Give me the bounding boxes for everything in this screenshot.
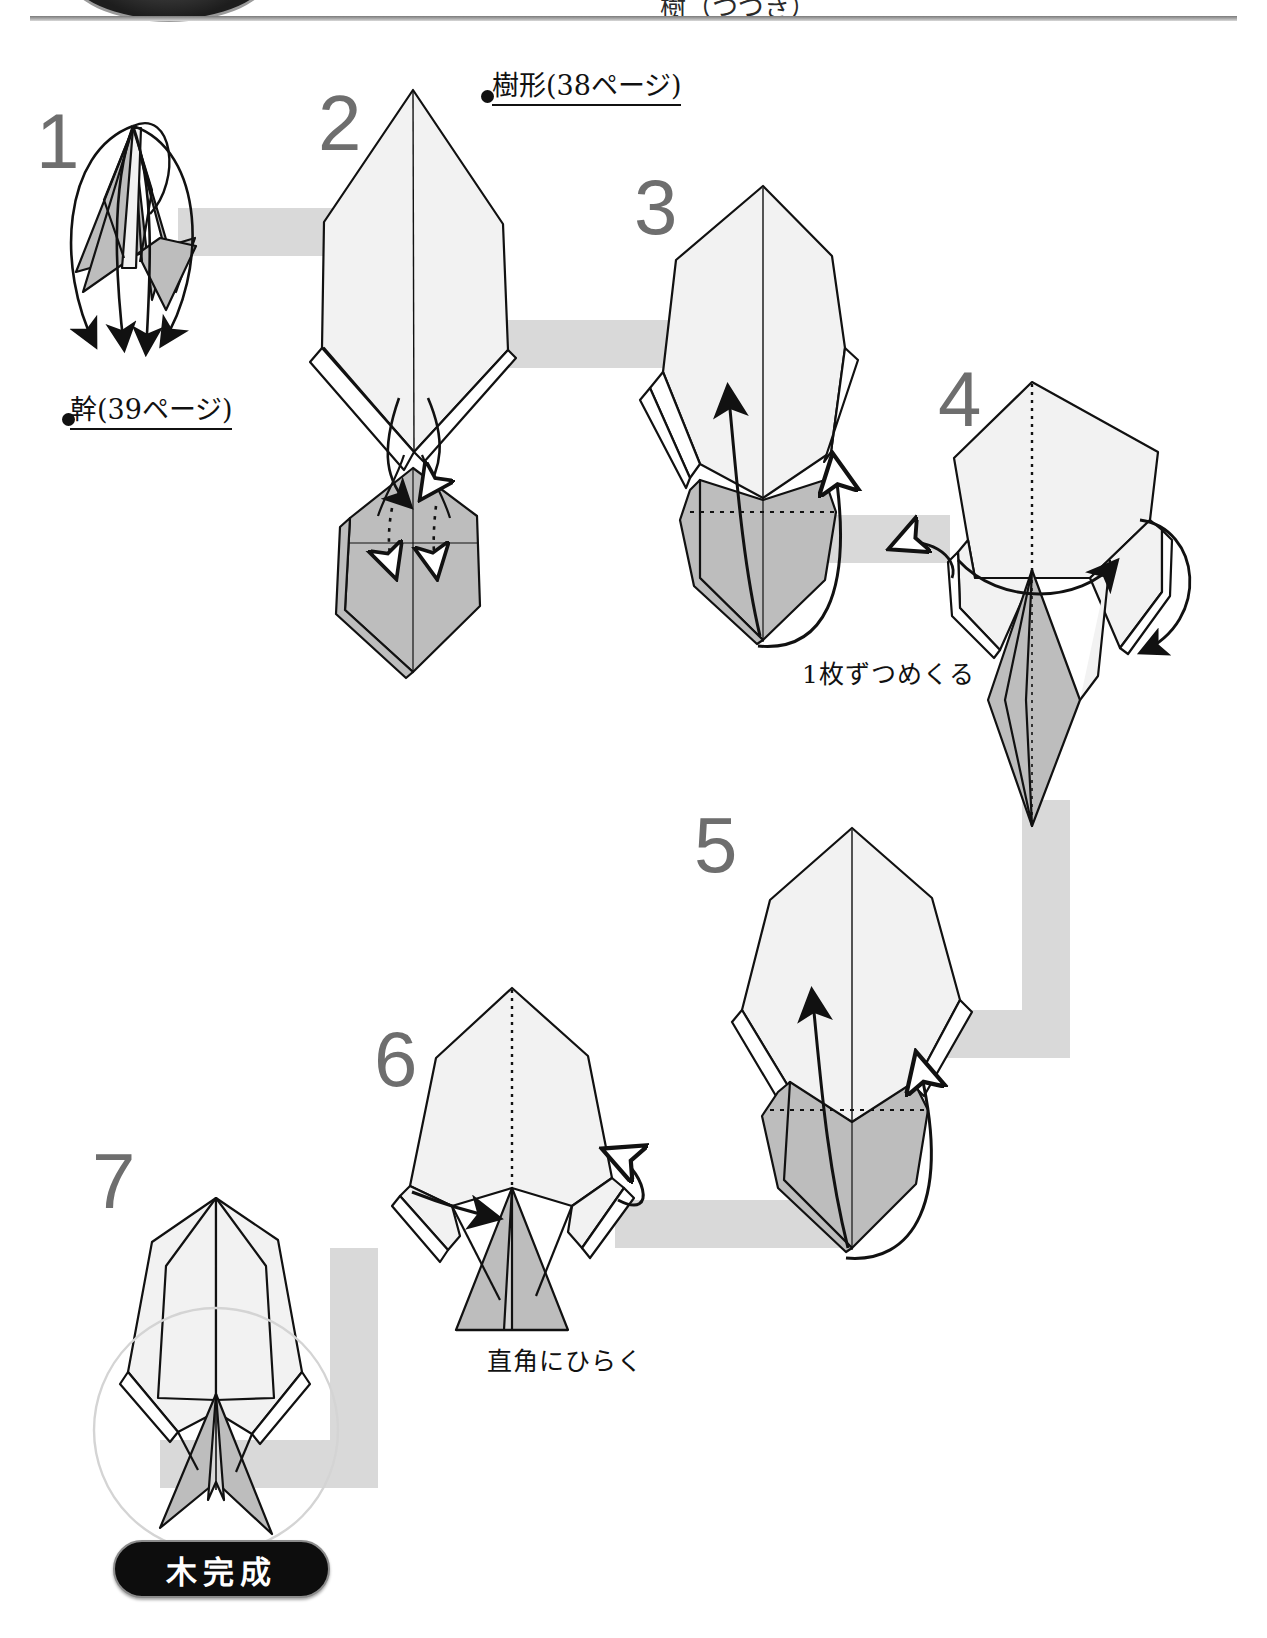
origami-instruction-sheet: 樹（つづき） bbox=[0, 0, 1267, 1638]
step-number-6: 6 bbox=[374, 1020, 415, 1098]
step-number-4: 4 bbox=[938, 360, 979, 438]
step-number-5: 5 bbox=[694, 806, 735, 884]
step-number-2: 2 bbox=[318, 84, 359, 162]
step-number-3: 3 bbox=[634, 168, 675, 246]
figure-step-5 bbox=[732, 828, 972, 1252]
peel-one-sheet-note: 1枚ずつめくる bbox=[802, 654, 975, 690]
completion-badge: 木完成 bbox=[113, 1540, 330, 1598]
step-number-7: 7 bbox=[92, 1142, 133, 1220]
figure-step-6 bbox=[392, 988, 634, 1330]
tree-shape-ref-label[interactable]: 樹形(38ページ) bbox=[492, 64, 681, 106]
open-right-angle-note: 直角にひらく bbox=[487, 1341, 643, 1377]
step-number-1: 1 bbox=[36, 102, 77, 180]
figure-step-2 bbox=[310, 90, 516, 678]
completion-badge-label: 木完成 bbox=[166, 1547, 277, 1592]
figure-step-7-completed bbox=[120, 1198, 310, 1534]
figure-step-4 bbox=[948, 382, 1172, 826]
trunk-ref-label[interactable]: 幹(39ページ) bbox=[70, 388, 232, 430]
